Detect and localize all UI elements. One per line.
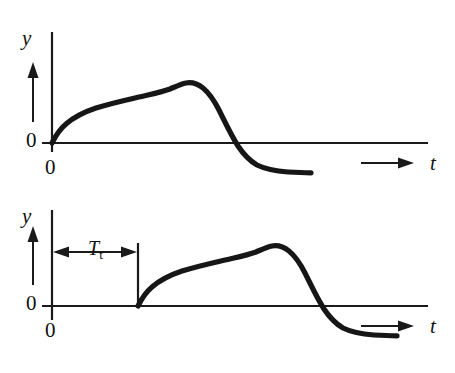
chart-panel-top: y 0 0 t: [0, 0, 455, 190]
y-origin-label-top: 0: [26, 130, 37, 151]
figure-root: y 0 0 t: [0, 0, 455, 373]
delay-interval-label-main: T: [88, 237, 99, 259]
y-axis-direction-arrow-top: [28, 62, 39, 122]
t-axis-label-top: t: [430, 153, 436, 174]
delay-interval-label: Tt: [88, 238, 103, 261]
response-curve-top: [52, 83, 311, 173]
t-axis-label-bottom: t: [430, 316, 436, 337]
plot-canvas-bottom: [0, 185, 455, 373]
t-axis-direction-arrow-top: [361, 158, 414, 169]
t-origin-label-bottom: 0: [45, 320, 56, 341]
response-curve-bottom: [138, 246, 397, 336]
t-origin-label-top: 0: [45, 157, 56, 178]
t-axis-direction-arrow-bottom: [361, 321, 414, 332]
y-axis-direction-arrow-bottom: [28, 226, 39, 285]
y-axis-label-bottom: y: [22, 206, 31, 227]
delay-interval-label-subscript: t: [99, 247, 103, 262]
chart-panel-bottom: y 0 0 t Tt: [0, 185, 455, 373]
y-axis-label-top: y: [22, 28, 31, 49]
y-origin-label-bottom: 0: [26, 293, 37, 314]
plot-canvas-top: [0, 0, 455, 190]
